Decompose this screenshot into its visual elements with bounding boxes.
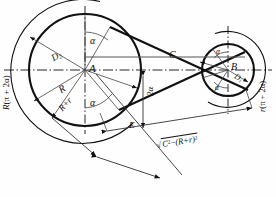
label-alpha-top-B: α [216, 48, 220, 56]
arc-right-prefix: r [257, 109, 267, 112]
formula-group-exp: 2 [194, 134, 198, 140]
label-alpha-bottom-B: α [215, 84, 219, 92]
label-center-A: A [89, 63, 96, 74]
label-alpha-top-A: α [90, 36, 95, 46]
arc-right-expr: (π + 2α) [257, 81, 267, 109]
diagram-canvas: A B C E R R+r D2 D1 α α α α 2α R(π + 2α)… [0, 0, 276, 197]
arc-left-expr: (π + 2α) [1, 75, 11, 104]
label-crossing-point-C: C [169, 50, 176, 60]
leader-R-plus-r [52, 70, 85, 118]
radius-left-B [200, 62, 228, 70]
arc-left-prefix: R [1, 105, 11, 111]
dim-E-line [96, 74, 182, 175]
label-arc-length-right: r(π + 2α) [258, 81, 267, 112]
label-center-B: B [231, 62, 237, 72]
belt-tangent-top [110, 27, 248, 90]
dim-lower-left [52, 118, 96, 156]
label-two-alpha: 2α [146, 87, 155, 96]
geometry-drawing [0, 0, 276, 197]
label-arc-length-left: R(π + 2α) [2, 75, 11, 110]
label-alpha-bottom-A: α [90, 98, 95, 108]
dim-bottom [97, 157, 160, 178]
label-span-E: E [129, 121, 135, 130]
